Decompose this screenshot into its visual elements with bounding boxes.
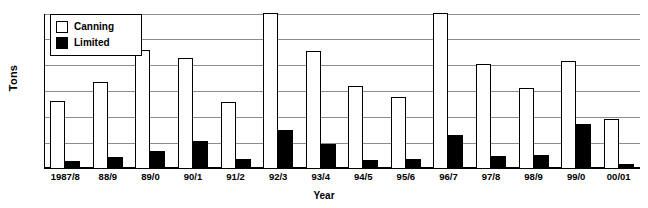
- bar-chart: Tons 020406080100120 1987/888/989/090/19…: [0, 0, 648, 208]
- x-tick-label: 99/0: [567, 171, 586, 182]
- x-tick-label: 88/9: [99, 171, 118, 182]
- x-tick-label: 94/5: [354, 171, 373, 182]
- legend-item-canning: Canning: [56, 19, 136, 35]
- x-tick-label: 92/3: [269, 171, 288, 182]
- x-tick-label: 97/8: [482, 171, 501, 182]
- legend-item-label: Limited: [74, 38, 110, 48]
- legend-item-label: Canning: [74, 22, 114, 32]
- x-tick-label: 96/7: [439, 171, 458, 182]
- x-tick-label: 89/0: [141, 171, 160, 182]
- x-axis-title: Year: [0, 190, 648, 201]
- x-tick-label: 90/1: [184, 171, 203, 182]
- x-tick-label: 1987/8: [51, 171, 80, 182]
- x-tick-label: 95/6: [397, 171, 416, 182]
- y-axis-title: Tons: [7, 48, 19, 108]
- x-tick-label: 93/4: [311, 171, 330, 182]
- x-axis-ticks: 1987/888/989/090/191/292/393/494/595/696…: [44, 171, 640, 187]
- x-tick-label: 98/9: [524, 171, 543, 182]
- legend-item-limited: Limited: [56, 35, 136, 51]
- x-tick-label: 91/2: [226, 171, 245, 182]
- open-square-swatch-icon: [56, 21, 68, 33]
- chart-legend: Canning Limited: [50, 14, 142, 56]
- x-tick-label: 00/01: [607, 171, 631, 182]
- filled-square-swatch-icon: [56, 37, 68, 49]
